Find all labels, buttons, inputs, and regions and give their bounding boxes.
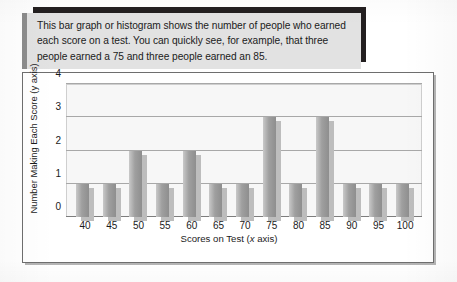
- y-tick-label: 1: [55, 169, 61, 179]
- y-tick-label: 0: [55, 202, 61, 212]
- bar-body: [369, 184, 382, 217]
- bar-body: [236, 184, 249, 217]
- bar: [369, 184, 387, 217]
- x-tick-label: 65: [204, 221, 232, 231]
- bar-body: [103, 184, 116, 217]
- bar-body: [209, 184, 222, 217]
- y-axis-title: Number Making Each Score (y axis): [28, 56, 39, 221]
- x-tick-label: 45: [98, 221, 126, 231]
- bar-body: [289, 184, 302, 217]
- x-tick-label: 70: [231, 221, 259, 231]
- bar-body: [343, 184, 356, 217]
- bar: [209, 184, 227, 217]
- bar: [289, 184, 307, 217]
- bar-body: [183, 151, 196, 218]
- bar: [183, 151, 201, 218]
- plot-area-wrapper: 01234 404550556065707580859095100: [66, 84, 422, 217]
- x-tick-label: 90: [338, 221, 366, 231]
- bar: [103, 184, 121, 217]
- x-tick-label: 75: [258, 221, 286, 231]
- bar-body: [396, 184, 409, 217]
- x-tick-label: 95: [364, 221, 392, 231]
- bar-body: [156, 184, 169, 217]
- caption-callout: This bar graph or histogram shows the nu…: [22, 7, 358, 65]
- bar: [236, 184, 254, 217]
- bar: [263, 117, 281, 217]
- x-tick-label: 60: [178, 221, 206, 231]
- x-axis-title-text: Scores on Test (x axis): [181, 233, 278, 244]
- bars-layer: [66, 84, 422, 217]
- chart-frame-shadow-bottom: [25, 263, 436, 265]
- bar: [396, 184, 414, 217]
- bar: [76, 184, 94, 217]
- y-tick-label: 2: [55, 136, 61, 146]
- x-tick-label: 50: [124, 221, 152, 231]
- caption-text: This bar graph or histogram shows the nu…: [37, 18, 351, 64]
- x-tick-label: 40: [71, 221, 99, 231]
- bar: [156, 184, 174, 217]
- caption-box: This bar graph or histogram shows the nu…: [27, 13, 361, 69]
- x-axis-title: Scores on Test (x axis): [23, 233, 435, 244]
- bar: [343, 184, 361, 217]
- bar: [316, 117, 334, 217]
- bar-body: [263, 117, 276, 217]
- x-tick-label: 100: [391, 221, 419, 231]
- bar-body: [129, 151, 142, 218]
- y-tick-label: 4: [55, 69, 61, 79]
- x-tick-label: 80: [284, 221, 312, 231]
- bar: [129, 151, 147, 218]
- bar-body: [76, 184, 89, 217]
- bar-chart: Number Making Each Score (y axis) 01234 …: [22, 72, 434, 263]
- x-tick-label: 85: [311, 221, 339, 231]
- bar-body: [316, 117, 329, 217]
- x-tick-label: 55: [151, 221, 179, 231]
- y-tick-label: 3: [55, 102, 61, 112]
